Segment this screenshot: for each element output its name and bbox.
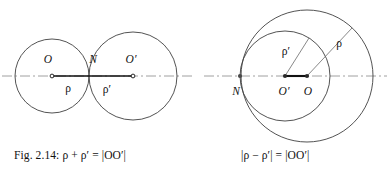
left-panel-group: O N O′ ρ ρ′	[2, 32, 192, 120]
right-label-O-prime: O′	[279, 85, 290, 97]
tangent-circles-diagram: O N O′ ρ ρ′ N O′	[0, 0, 389, 145]
figure-caption-left: Fig. 2.14: ρ + ρ′ = |OO′|	[14, 149, 126, 161]
figure-caption-right: |ρ − ρ′| = |OO′|	[241, 149, 309, 161]
right-center-dot-O-prime	[283, 74, 287, 78]
left-center-dot-O	[50, 74, 54, 78]
left-label-N: N	[88, 53, 98, 65]
right-label-O: O	[304, 85, 313, 97]
right-label-rho-prime: ρ′	[282, 45, 290, 58]
right-center-dot-O	[305, 74, 309, 78]
right-point-dot-N	[238, 74, 242, 78]
right-label-N: N	[231, 85, 241, 97]
right-label-rho: ρ	[336, 37, 342, 50]
left-label-rho-prime: ρ′	[103, 83, 111, 96]
caption-row: Fig. 2.14: ρ + ρ′ = |OO′| |ρ − ρ′| = |OO…	[0, 145, 389, 175]
figure-container: O N O′ ρ ρ′ N O′	[0, 0, 389, 175]
left-label-O-prime: O′	[126, 53, 137, 65]
right-panel-group: N O′ O ρ ρ′	[204, 10, 387, 142]
right-segment-rho-prime	[285, 38, 309, 76]
left-label-rho: ρ	[65, 82, 71, 95]
left-label-O: O	[44, 53, 53, 65]
left-center-dot-O-prime	[131, 74, 135, 78]
